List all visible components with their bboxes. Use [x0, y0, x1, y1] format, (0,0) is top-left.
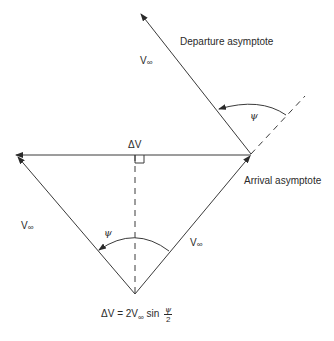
v-infinity-right-label: V∞ [190, 238, 202, 249]
delta-v-label: ΔV [128, 140, 141, 150]
arrival-asymptote-label: Arrival asymptote [244, 176, 321, 186]
velocity-vector-diagram: Departure asymptote Arrival asymptote V∞… [0, 0, 334, 341]
departure-asymptote-label: Departure asymptote [180, 37, 273, 47]
psi-over-two-fraction: ψ2 [164, 305, 172, 324]
outgoing-velocity-vector [18, 157, 135, 294]
v-infinity-left-label: V∞ [21, 221, 33, 232]
v-infinity-departure-label: V∞ [140, 56, 152, 67]
vector-diagram-graphic [0, 0, 334, 341]
psi-angle-label-top: ψ [250, 111, 258, 121]
psi-angle-label-bottom: ψ [104, 228, 112, 238]
incoming-velocity-vector [135, 156, 250, 294]
turn-angle-arc-bottom [99, 238, 169, 251]
right-angle-marker [135, 155, 144, 163]
departure-velocity-vector [141, 14, 251, 154]
delta-v-equation: ΔV = 2V∞ sin ψ2 [101, 305, 172, 324]
